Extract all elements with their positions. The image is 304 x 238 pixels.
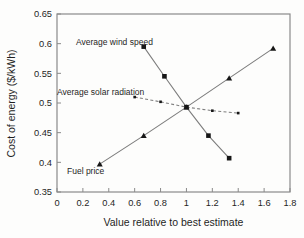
marker-triangle <box>141 133 147 138</box>
series-line <box>144 47 229 159</box>
x-tick-label: 1.2 <box>206 198 219 208</box>
x-tick-label: 1 <box>184 198 189 208</box>
marker-dot <box>211 109 214 112</box>
x-tick-label: 1.6 <box>258 198 271 208</box>
series-label-solar-radiation: Average solar radiation <box>57 87 144 97</box>
chart-canvas: 00.20.40.60.811.21.41.61.80.350.40.450.5… <box>0 0 304 238</box>
marker-dot <box>237 112 240 115</box>
marker-dot <box>159 101 162 104</box>
marker-square <box>206 133 211 138</box>
y-tick-label: 0.65 <box>34 9 52 19</box>
y-tick-label: 0.6 <box>39 39 52 49</box>
series-label-fuel-price: Fuel price <box>67 166 104 176</box>
x-tick-label: 0.8 <box>154 198 167 208</box>
x-tick-label: 0.4 <box>102 198 115 208</box>
y-axis-title: Cost of energy ($/kWh) <box>5 15 18 193</box>
x-tick-label: 1.8 <box>284 198 297 208</box>
x-tick-label: 0 <box>54 198 59 208</box>
x-tick-label: 0.6 <box>128 198 141 208</box>
y-tick-label: 0.5 <box>39 98 52 108</box>
x-tick-label: 0.2 <box>76 198 89 208</box>
marker-square <box>227 156 232 161</box>
y-tick-label: 0.35 <box>34 187 52 197</box>
series-label-wind-speed: Average wind speed <box>76 37 153 47</box>
y-tick-label: 0.55 <box>34 69 52 79</box>
chart-figure: 00.20.40.60.811.21.41.61.80.350.40.450.5… <box>0 0 304 238</box>
x-axis-title: Value relative to best estimate <box>57 216 290 228</box>
marker-triangle <box>270 46 276 51</box>
y-tick-label: 0.4 <box>39 158 52 168</box>
marker-square <box>162 74 167 79</box>
marker-triangle <box>226 75 232 80</box>
y-tick-label: 0.45 <box>34 128 52 138</box>
x-tick-label: 1.4 <box>232 198 245 208</box>
